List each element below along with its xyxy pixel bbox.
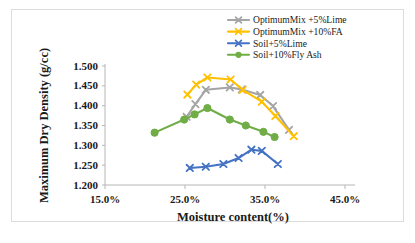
line-chart: 1.2001.2501.3001.3501.4001.4501.50015.0%…	[0, 0, 415, 243]
data-point-marker	[226, 116, 233, 123]
y-tick-label: 1.500	[73, 60, 98, 72]
data-point-marker	[270, 103, 276, 109]
data-point-marker	[260, 128, 267, 135]
y-tick-label: 1.250	[73, 159, 98, 171]
series-4	[151, 104, 278, 140]
legend-item-label: OptimumMix +10%FA	[253, 26, 343, 37]
data-point-marker	[192, 101, 198, 107]
x-tick-label: 15.0%	[90, 193, 120, 205]
x-axis-title: Moisture content(%)	[177, 210, 289, 224]
legend-item-4: Soil+10%Fly Ash	[228, 49, 322, 60]
legend-item-3: Soil+5%Lime	[228, 38, 307, 49]
x-tick-label: 45.0%	[330, 193, 360, 205]
legend-item-2: OptimumMix +10%FA	[228, 26, 343, 37]
data-point-marker	[193, 81, 199, 87]
x-tick-label: 35.0%	[250, 193, 280, 205]
series-3	[187, 146, 281, 171]
legend-marker-icon	[235, 52, 241, 58]
data-point-marker	[191, 111, 198, 118]
data-point-marker	[275, 161, 281, 167]
y-axis-title: Maximum Dry Density (g/cc)	[37, 48, 51, 203]
series-line	[155, 108, 275, 137]
series-group	[151, 74, 297, 171]
data-point-marker	[259, 99, 265, 105]
y-tick-label: 1.400	[73, 99, 98, 111]
y-tick-label: 1.300	[73, 139, 98, 151]
legend-item-label: Soil+10%Fly Ash	[253, 49, 322, 60]
plot-area-wrapper: 1.2001.2501.3001.3501.4001.4501.50015.0%…	[0, 0, 415, 243]
series-2	[184, 74, 297, 139]
data-point-marker	[181, 116, 188, 123]
data-point-marker	[204, 104, 211, 111]
chart-figure: 1.2001.2501.3001.3501.4001.4501.50015.0%…	[0, 0, 415, 243]
y-tick-label: 1.450	[73, 79, 98, 91]
series-1	[183, 84, 292, 133]
legend-item-label: OptimumMix +5%Lime	[253, 14, 347, 25]
y-tick-label: 1.350	[73, 119, 98, 131]
legend-item-label: Soil+5%Lime	[253, 38, 307, 49]
data-point-marker	[271, 133, 278, 140]
data-point-marker	[272, 113, 278, 119]
y-tick-label: 1.200	[73, 179, 98, 191]
x-tick-label: 25.0%	[170, 193, 200, 205]
data-point-marker	[151, 129, 158, 136]
tick-labels-group: 1.2001.2501.3001.3501.4001.4501.50015.0%…	[73, 60, 360, 205]
data-point-marker	[291, 133, 297, 139]
data-point-marker	[184, 91, 190, 97]
chart-legend: OptimumMix +5%LimeOptimumMix +10%FASoil+…	[228, 14, 347, 60]
data-point-marker	[242, 122, 249, 129]
legend-item-1: OptimumMix +5%Lime	[228, 14, 347, 25]
